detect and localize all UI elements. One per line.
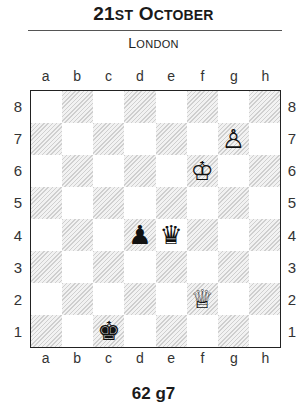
- square-g6[interactable]: [218, 155, 249, 187]
- square-d6[interactable]: [124, 155, 155, 187]
- rank-label-8: 8: [282, 90, 302, 122]
- square-b3[interactable]: [62, 251, 93, 283]
- square-g7[interactable]: ♙: [218, 123, 249, 155]
- file-label-g: g: [218, 350, 249, 366]
- square-b6[interactable]: [62, 155, 93, 187]
- black-pawn-icon[interactable]: ♟: [128, 222, 151, 248]
- white-king-icon[interactable]: ♔: [191, 158, 214, 184]
- black-king-icon[interactable]: ♚: [97, 318, 120, 344]
- square-e8[interactable]: [156, 91, 187, 123]
- square-e4[interactable]: ♛: [156, 219, 187, 251]
- rank-label-3: 3: [282, 251, 302, 283]
- square-h3[interactable]: [249, 251, 280, 283]
- rank-label-3: 3: [8, 251, 28, 283]
- square-h2[interactable]: [249, 283, 280, 315]
- square-g5[interactable]: [218, 187, 249, 219]
- white-pawn-icon[interactable]: ♙: [222, 126, 245, 152]
- square-g1[interactable]: [218, 315, 249, 347]
- square-e3[interactable]: [156, 251, 187, 283]
- rank-label-2: 2: [8, 284, 28, 316]
- square-c6[interactable]: [93, 155, 124, 187]
- square-h7[interactable]: [249, 123, 280, 155]
- square-d1[interactable]: [124, 315, 155, 347]
- square-h4[interactable]: [249, 219, 280, 251]
- square-e7[interactable]: [156, 123, 187, 155]
- square-g3[interactable]: [218, 251, 249, 283]
- square-a8[interactable]: [31, 91, 62, 123]
- square-f3[interactable]: [187, 251, 218, 283]
- chess-board: ♙♔♟♛♕♚: [30, 90, 281, 348]
- title-suffix: ST: [115, 7, 133, 23]
- rank-label-6: 6: [8, 155, 28, 187]
- square-b2[interactable]: [62, 283, 93, 315]
- rank-labels-right: 87654321: [282, 90, 302, 348]
- square-g2[interactable]: [218, 283, 249, 315]
- file-label-d: d: [124, 350, 155, 366]
- square-d3[interactable]: [124, 251, 155, 283]
- square-d2[interactable]: [124, 283, 155, 315]
- file-label-a: a: [30, 350, 61, 366]
- square-g8[interactable]: [218, 91, 249, 123]
- square-f4[interactable]: [187, 219, 218, 251]
- file-label-h: h: [250, 68, 281, 84]
- move-caption: 62 g7: [0, 384, 307, 404]
- square-h5[interactable]: [249, 187, 280, 219]
- square-h6[interactable]: [249, 155, 280, 187]
- square-c5[interactable]: [93, 187, 124, 219]
- square-b8[interactable]: [62, 91, 93, 123]
- square-f8[interactable]: [187, 91, 218, 123]
- square-b5[interactable]: [62, 187, 93, 219]
- black-queen-icon[interactable]: ♛: [159, 222, 182, 248]
- square-h1[interactable]: [249, 315, 280, 347]
- square-d7[interactable]: [124, 123, 155, 155]
- square-a7[interactable]: [31, 123, 62, 155]
- square-f6[interactable]: ♔: [187, 155, 218, 187]
- rank-label-5: 5: [8, 187, 28, 219]
- square-d5[interactable]: [124, 187, 155, 219]
- square-f7[interactable]: [187, 123, 218, 155]
- square-a5[interactable]: [31, 187, 62, 219]
- square-e1[interactable]: [156, 315, 187, 347]
- square-f1[interactable]: [187, 315, 218, 347]
- square-a4[interactable]: [31, 219, 62, 251]
- title-day: 21: [93, 3, 115, 24]
- rank-labels-left: 87654321: [8, 90, 28, 348]
- square-f2[interactable]: ♕: [187, 283, 218, 315]
- square-c8[interactable]: [93, 91, 124, 123]
- rank-label-8: 8: [8, 90, 28, 122]
- white-queen-icon[interactable]: ♕: [191, 286, 214, 312]
- rank-label-6: 6: [282, 155, 302, 187]
- location-subtitle: LONDON: [0, 35, 307, 51]
- square-d4[interactable]: ♟: [124, 219, 155, 251]
- file-label-d: d: [124, 68, 155, 84]
- file-label-e: e: [156, 68, 187, 84]
- file-labels-top: abcdefgh: [30, 68, 281, 84]
- title-divider: [28, 30, 282, 31]
- square-f5[interactable]: [187, 187, 218, 219]
- square-c4[interactable]: [93, 219, 124, 251]
- square-e5[interactable]: [156, 187, 187, 219]
- square-a3[interactable]: [31, 251, 62, 283]
- square-c7[interactable]: [93, 123, 124, 155]
- title-month-rest: CTOBER: [154, 7, 214, 23]
- square-a6[interactable]: [31, 155, 62, 187]
- square-e6[interactable]: [156, 155, 187, 187]
- square-e2[interactable]: [156, 283, 187, 315]
- rank-label-1: 1: [8, 316, 28, 348]
- square-b1[interactable]: [62, 315, 93, 347]
- square-b4[interactable]: [62, 219, 93, 251]
- square-d8[interactable]: [124, 91, 155, 123]
- square-b7[interactable]: [62, 123, 93, 155]
- square-h8[interactable]: [249, 91, 280, 123]
- square-a1[interactable]: [31, 315, 62, 347]
- square-c1[interactable]: ♚: [93, 315, 124, 347]
- rank-label-4: 4: [8, 219, 28, 251]
- subtitle-rest: ONDON: [136, 38, 178, 50]
- square-c3[interactable]: [93, 251, 124, 283]
- square-g4[interactable]: [218, 219, 249, 251]
- square-a2[interactable]: [31, 283, 62, 315]
- square-c2[interactable]: [93, 283, 124, 315]
- file-label-b: b: [61, 68, 92, 84]
- page-title: 21ST OCTOBER: [0, 3, 307, 25]
- rank-label-1: 1: [282, 316, 302, 348]
